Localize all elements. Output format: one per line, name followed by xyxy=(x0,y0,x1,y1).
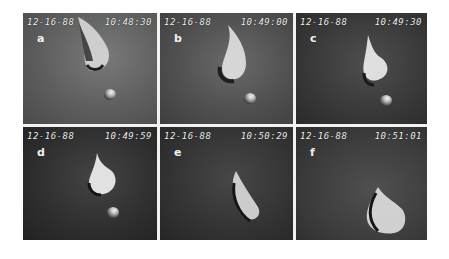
bead xyxy=(380,95,392,106)
cell-image xyxy=(296,13,427,124)
panel-b: 12-16-88 10:49:00 b xyxy=(160,13,293,124)
bead xyxy=(104,89,116,100)
time-stamp: 10:50:29 xyxy=(241,131,288,141)
panel-a: 12-16-88 10:48:30 a xyxy=(23,13,157,124)
cell-image xyxy=(296,127,427,240)
time-stamp: 10:51:01 xyxy=(375,131,422,141)
date-stamp: 12-16-88 xyxy=(27,131,74,141)
date-stamp: 12-16-88 xyxy=(164,131,211,141)
panel-label: c xyxy=(310,32,317,45)
date-stamp: 12-16-88 xyxy=(164,17,211,27)
bead xyxy=(244,93,256,104)
time-stamp: 10:49:30 xyxy=(375,17,422,27)
cell-image xyxy=(160,127,293,240)
date-stamp: 12-16-88 xyxy=(300,17,347,27)
cell-image xyxy=(23,127,157,240)
panel-e: 12-16-88 10:50:29 e xyxy=(160,127,293,240)
bead xyxy=(107,207,119,218)
cell-image xyxy=(23,13,157,124)
panel-c: 12-16-88 10:49:30 c xyxy=(296,13,427,124)
microscopy-figure: 12-16-88 10:48:30 a 12-16-88 10:49:00 b … xyxy=(23,13,427,240)
date-stamp: 12-16-88 xyxy=(300,131,347,141)
cell-image xyxy=(160,13,293,124)
panel-label: d xyxy=(37,146,45,159)
panel-label: b xyxy=(174,32,182,45)
panel-label: a xyxy=(37,32,44,45)
time-stamp: 10:49:00 xyxy=(241,17,288,27)
date-stamp: 12-16-88 xyxy=(27,17,74,27)
time-stamp: 10:48:30 xyxy=(105,17,152,27)
panel-label: e xyxy=(174,146,181,159)
panel-d: 12-16-88 10:49:59 d xyxy=(23,127,157,240)
panel-label: f xyxy=(310,146,315,159)
time-stamp: 10:49:59 xyxy=(105,131,152,141)
panel-f: 12-16-88 10:51:01 f xyxy=(296,127,427,240)
